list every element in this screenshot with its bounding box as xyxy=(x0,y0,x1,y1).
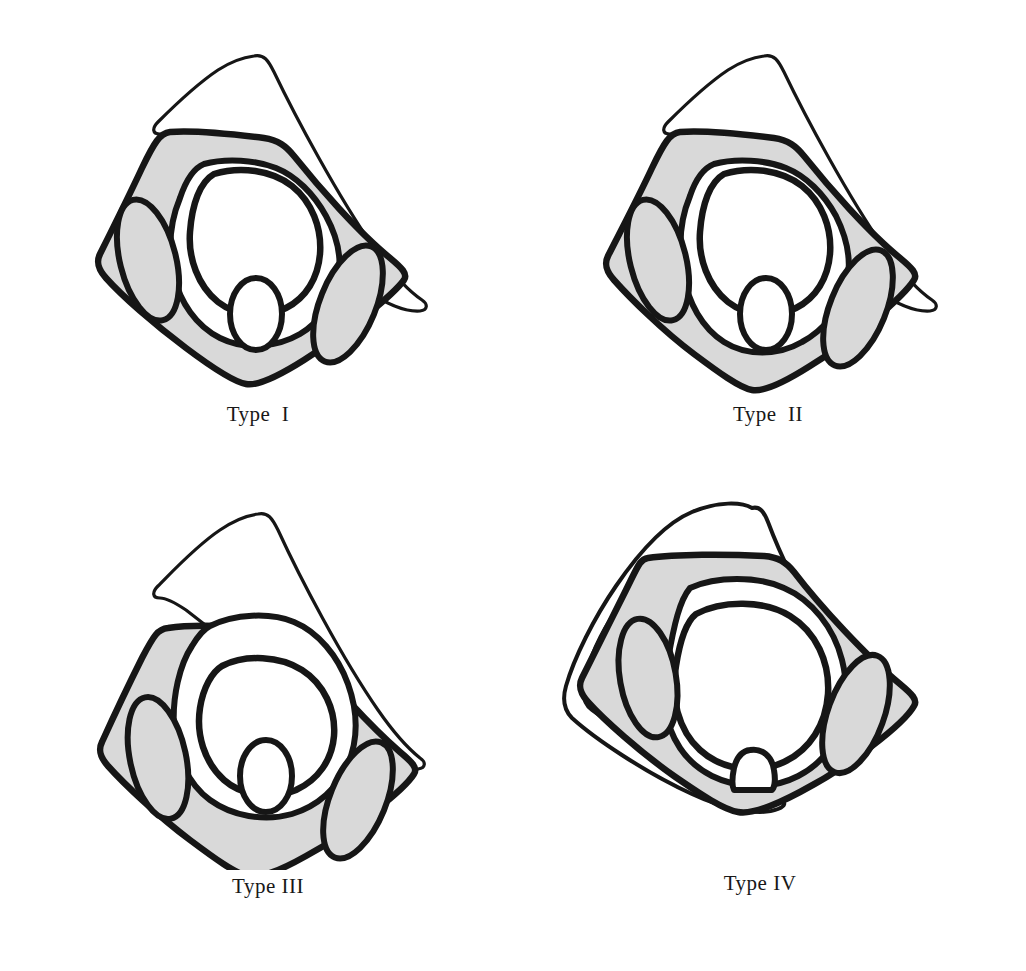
panel-caption-type-3: Type III xyxy=(232,874,304,899)
panel-type-1: Type I xyxy=(18,46,498,427)
diagram-type-1 xyxy=(18,46,498,396)
central-oval xyxy=(733,750,775,790)
figure-root: Type I Type II xyxy=(0,0,1026,971)
central-oval xyxy=(240,740,292,812)
panel-caption-type-1: Type I xyxy=(227,402,290,427)
diagram-type-3 xyxy=(28,500,508,870)
diagram-type-4 xyxy=(520,492,1000,867)
panel-type-4: Type IV xyxy=(520,492,1000,896)
central-circle xyxy=(674,604,828,769)
panel-type-3: Type III xyxy=(28,500,508,899)
central-oval xyxy=(230,278,282,350)
central-oval xyxy=(740,278,792,350)
panel-type-2: Type II xyxy=(528,46,1008,427)
diagram-type-2 xyxy=(528,46,1008,396)
panel-caption-type-4: Type IV xyxy=(724,871,797,896)
panel-caption-type-2: Type II xyxy=(733,402,803,427)
